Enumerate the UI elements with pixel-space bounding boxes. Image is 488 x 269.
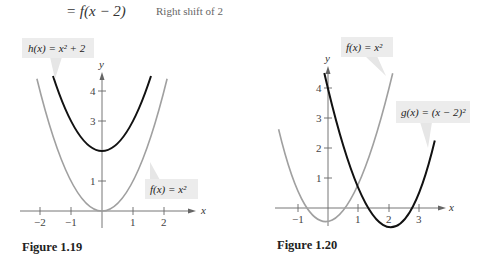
label-f: f(x) = x² (150, 183, 187, 196)
figure-caption: Figure 1.20 (277, 238, 337, 253)
curve-f-x-squared (279, 73, 393, 221)
x-tick-label: −2 (34, 216, 46, 228)
x-axis-arrow-icon (438, 206, 446, 211)
x-axis-label: x (448, 201, 454, 213)
x-tick-label: 2 (161, 216, 167, 228)
y-tick-label: 3 (90, 115, 96, 127)
y-axis-arrow-icon (100, 72, 105, 80)
x-tick-label: 3 (416, 213, 422, 225)
label-f: f(x) = x² (346, 41, 383, 54)
x-axis-label: x (200, 204, 206, 216)
label-g: g(x) = (x − 2)² (401, 106, 466, 119)
x-tick-label: 1 (130, 216, 136, 228)
y-tick-label: 4 (90, 85, 96, 97)
y-tick-label: 3 (316, 112, 322, 124)
label-pointer (50, 57, 62, 79)
y-tick-label: 1 (90, 175, 96, 187)
figures-canvas: x y −2 −1 1 2 1 3 4 h(x) = x² + 2 f( (0, 0, 488, 269)
x-tick-label: −1 (292, 213, 304, 225)
label-pointer (150, 162, 160, 180)
label-h: h(x) = x² + 2 (28, 42, 86, 55)
figure-1-20-plot: x y −1 1 2 3 1 2 3 4 f(x) = x² (275, 37, 470, 227)
figure-1-19-plot: x y −2 −1 1 2 1 3 4 h(x) = x² + 2 f( (20, 38, 206, 228)
x-tick-label: 2 (386, 213, 392, 225)
y-tick-label: 4 (316, 82, 322, 94)
y-axis-label: y (324, 52, 330, 64)
y-tick-label: 2 (316, 142, 322, 154)
x-tick-label: 1 (355, 213, 361, 225)
label-pointer (365, 56, 386, 76)
y-tick-label: 1 (316, 172, 322, 184)
y-axis-label: y (98, 58, 104, 70)
curve-g-shifted-right (324, 73, 435, 227)
x-axis-arrow-icon (188, 209, 196, 214)
y-axis-arrow-icon (326, 66, 331, 74)
figure-caption: Figure 1.19 (22, 240, 82, 255)
x-tick-label: −1 (65, 216, 77, 228)
label-pointer (420, 122, 432, 148)
